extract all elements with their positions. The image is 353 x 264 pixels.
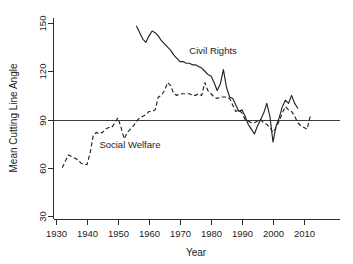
chart-background — [0, 0, 353, 264]
y-tick-label-30: 30 — [37, 211, 48, 222]
chart-figure: 306090120150 193019401950196019701980199… — [0, 0, 353, 264]
y-tick-label-120: 120 — [37, 64, 48, 80]
y-tick-label-90: 90 — [37, 115, 48, 126]
y-axis-title: Mean Cutting Line Angle — [8, 63, 19, 172]
x-tick-label-2010: 2010 — [294, 228, 315, 239]
x-tick-label-1970: 1970 — [170, 228, 191, 239]
x-tick-label-1930: 1930 — [46, 228, 67, 239]
x-tick-label-1990: 1990 — [232, 228, 253, 239]
series-label-social-welfare: Social Welfare — [99, 139, 160, 150]
x-tick-label-1980: 1980 — [201, 228, 222, 239]
x-axis-tick-labels: 193019401950196019701980199020002010 — [46, 228, 315, 239]
x-tick-label-1960: 1960 — [139, 228, 160, 239]
x-tick-label-2000: 2000 — [263, 228, 284, 239]
y-tick-label-150: 150 — [37, 16, 48, 32]
line-chart-canvas: 306090120150 193019401950196019701980199… — [0, 0, 353, 264]
y-tick-label-60: 60 — [37, 163, 48, 174]
x-axis-title: Year — [186, 247, 207, 258]
series-label-civil-rights: Civil Rights — [189, 45, 237, 56]
x-tick-label-1940: 1940 — [77, 228, 98, 239]
x-tick-label-1950: 1950 — [108, 228, 129, 239]
